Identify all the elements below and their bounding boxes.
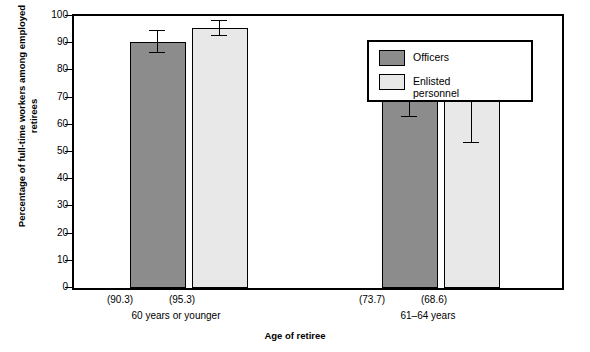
y-tickmark-90 — [65, 42, 72, 43]
value-label-officers-60-or-younger: (90.3) — [90, 294, 150, 305]
legend-swatch-officers — [379, 50, 405, 66]
x-axis-title: Age of retiree — [0, 330, 590, 341]
errorbar-cap-bottom-enlisted-61-64 — [463, 142, 479, 143]
value-label-enlisted-60-or-younger: (95.3) — [152, 294, 212, 305]
y-axis-title: Percentage of full-time workers among em… — [16, 0, 40, 236]
legend-item-officers: Officers — [379, 50, 449, 66]
y-tickmark-80 — [65, 69, 72, 70]
legend-label-enlisted-personnel: Enlisted personnel — [413, 74, 459, 99]
errorbar-cap-top-enlisted-60-or-younger — [211, 20, 227, 21]
y-tickmark-100 — [65, 15, 72, 16]
bar-enlisted-60-or-younger — [192, 28, 248, 288]
legend-item-enlisted-personnel: Enlisted personnel — [379, 74, 459, 99]
errorbar-line-enlisted-60-or-younger — [219, 21, 220, 36]
y-tickmark-10 — [65, 260, 72, 261]
errorbar-cap-bottom-officers-61-64 — [401, 116, 417, 117]
y-tickmark-30 — [65, 205, 72, 206]
y-tickmark-0 — [65, 287, 72, 288]
errorbar-cap-bottom-officers-60-or-younger — [149, 52, 165, 53]
bar-enlisted-61-64 — [444, 101, 500, 288]
y-axis-title-text: Percentage of full-time workers among em… — [16, 5, 39, 227]
group-label-60-or-younger: 60 years or younger — [81, 310, 271, 321]
legend-swatch-enlisted-personnel — [379, 74, 405, 90]
y-tickmark-70 — [65, 97, 72, 98]
bar-officers-60-or-younger — [130, 42, 186, 288]
bar-officers-61-64 — [382, 88, 438, 289]
y-axis-tick-labels: 100 90 80 70 60 50 40 30 20 10 0 — [38, 14, 68, 290]
errorbar-cap-top-officers-60-or-younger — [149, 30, 165, 31]
value-label-enlisted-61-64: (68.6) — [404, 294, 464, 305]
y-tickmark-40 — [65, 178, 72, 179]
legend: Officers Enlisted personnel — [367, 40, 533, 102]
bar-chart: Percentage of full-time workers among em… — [0, 0, 590, 352]
y-tickmark-60 — [65, 124, 72, 125]
plot-area: Officers Enlisted personnel — [72, 14, 564, 290]
errorbar-cap-bottom-enlisted-60-or-younger — [211, 35, 227, 36]
group-label-61-64: 61–64 years — [333, 310, 523, 321]
value-label-officers-61-64: (73.7) — [342, 294, 402, 305]
y-tickmark-50 — [65, 151, 72, 152]
legend-label-officers: Officers — [413, 50, 449, 63]
y-tickmark-20 — [65, 233, 72, 234]
errorbar-line-officers-60-or-younger — [157, 31, 158, 53]
